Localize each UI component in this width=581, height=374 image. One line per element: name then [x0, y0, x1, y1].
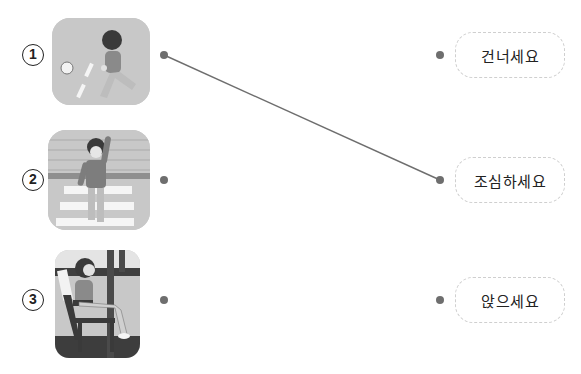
word-box-2[interactable]: 조심하세요 [455, 157, 565, 203]
picture-sitting-child [55, 250, 140, 358]
item-number-3: 3 [22, 289, 44, 311]
picture-crosswalk-child [48, 130, 150, 230]
running-child-illustration [52, 18, 150, 105]
item-dot-3[interactable] [160, 296, 168, 304]
sitting-child-illustration [55, 250, 140, 358]
word-box-3[interactable]: 앉으세요 [455, 277, 565, 323]
item-dot-1[interactable] [160, 51, 168, 59]
picture-running-child [52, 18, 150, 105]
word-dot-1[interactable] [436, 51, 444, 59]
word-box-1[interactable]: 건너세요 [455, 32, 565, 78]
word-dot-2[interactable] [436, 176, 444, 184]
word-label-3: 앉으세요 [481, 290, 539, 311]
crosswalk-child-illustration [48, 130, 150, 230]
word-dot-3[interactable] [436, 296, 444, 304]
item-number-2: 2 [22, 169, 44, 191]
item-dot-2[interactable] [160, 176, 168, 184]
item-number-1: 1 [22, 44, 44, 66]
word-label-1: 건너세요 [481, 45, 539, 66]
word-label-2: 조심하세요 [474, 170, 547, 191]
